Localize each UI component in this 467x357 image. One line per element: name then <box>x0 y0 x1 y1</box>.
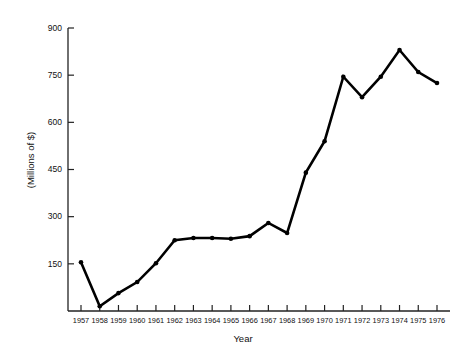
chart-canvas: 9007506004503001501957195819591960196119… <box>0 0 467 357</box>
x-axis-tick-label: 1960 <box>129 316 145 325</box>
x-axis-tick-label: 1969 <box>298 316 314 325</box>
x-axis-tick-label: 1972 <box>354 316 370 325</box>
x-axis-tick-label: 1965 <box>223 316 239 325</box>
x-axis-tick-label: 1966 <box>241 316 257 325</box>
x-axis-tick-label: 1959 <box>110 316 126 325</box>
y-axis-tick-label: 600 <box>48 117 62 127</box>
data-point-marker <box>304 170 309 175</box>
y-axis-title: (Millions of $) <box>25 132 36 189</box>
data-point-marker <box>247 234 252 239</box>
data-point-marker <box>154 261 159 266</box>
data-point-marker <box>435 81 440 86</box>
x-axis-tick-label: 1971 <box>335 316 351 325</box>
x-axis-tick-label: 1974 <box>391 316 407 325</box>
data-point-marker <box>116 291 121 296</box>
data-point-marker <box>135 280 140 285</box>
data-point-marker <box>378 74 383 79</box>
x-axis-tick-label: 1963 <box>185 316 201 325</box>
data-point-marker <box>360 95 365 100</box>
data-point-marker <box>416 70 421 75</box>
data-point-marker <box>79 260 84 265</box>
x-axis-tick-label: 1968 <box>279 316 295 325</box>
x-axis-tick-label: 1958 <box>92 316 108 325</box>
data-point-marker <box>322 139 327 144</box>
x-axis-tick-label: 1973 <box>373 316 389 325</box>
data-point-marker <box>397 48 402 53</box>
x-axis-tick-label: 1970 <box>316 316 332 325</box>
x-axis-tick-label: 1961 <box>148 316 164 325</box>
x-axis-tick-label: 1975 <box>410 316 426 325</box>
y-axis-tick-label: 750 <box>48 70 62 80</box>
x-axis-title: Year <box>233 333 252 344</box>
data-point-marker <box>229 236 234 241</box>
data-point-marker <box>341 74 346 79</box>
x-axis-tick-label: 1957 <box>73 316 89 325</box>
x-axis-tick-label: 1967 <box>260 316 276 325</box>
data-point-marker <box>191 236 196 241</box>
y-axis-tick-label: 150 <box>48 259 62 269</box>
y-axis-tick-label: 450 <box>48 164 62 174</box>
y-axis-tick-label: 900 <box>48 23 62 33</box>
line-chart-figure: 9007506004503001501957195819591960196119… <box>0 0 467 357</box>
y-axis-tick-label: 300 <box>48 211 62 221</box>
data-series-line <box>81 50 437 306</box>
data-point-marker <box>285 231 290 236</box>
data-point-marker <box>172 238 177 243</box>
x-axis-tick-label: 1962 <box>166 316 182 325</box>
x-axis-tick-label: 1976 <box>429 316 445 325</box>
data-point-marker <box>97 304 102 309</box>
data-point-marker <box>266 221 271 226</box>
data-point-marker <box>210 236 215 241</box>
x-axis-tick-label: 1964 <box>204 316 220 325</box>
